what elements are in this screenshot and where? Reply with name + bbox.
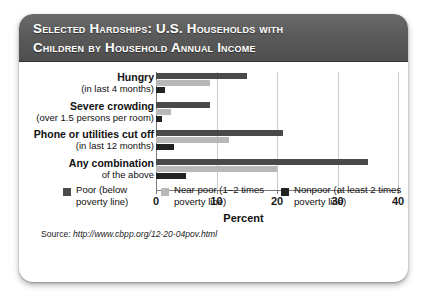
legend-label-line2: poverty line) [174,196,294,208]
bar-0-0 [156,73,247,79]
legend-label-line1: Nonpoor (at least 2 times [294,184,408,196]
category-label-line1: Hungry [19,71,154,83]
legend-label-1: Near poor (1–2 timespoverty line) [174,184,294,207]
card-header: Selected Hardships: U.S. Households with… [19,14,408,62]
gridline-40 [398,72,399,190]
category-label-line1: Phone or utilities cut off [19,128,154,140]
category-label-3: Any combinationof the above [19,157,154,180]
category-label-line2: (in last 12 months) [19,140,154,151]
chart-card: Selected Hardships: U.S. Households with… [19,14,408,282]
category-label-line1: Severe crowding [19,100,154,112]
title-line-2: Children by Household Annual Income [33,38,393,57]
category-label-line2: (in last 4 months) [19,83,154,94]
bar-3-0 [156,159,368,165]
bar-2-1 [156,137,229,143]
bar-1-2 [156,116,162,122]
category-label-1: Severe crowding(over 1.5 persons per roo… [19,100,154,123]
title-line-1: Selected Hardships: U.S. Households with [33,19,393,38]
category-label-2: Phone or utilities cut off(in last 12 mo… [19,128,154,151]
bar-3-1 [156,166,277,172]
source-note: Source: http://www.cbpp.org/12-20-04pov.… [41,229,217,239]
legend-label-line1: Near poor (1–2 times [174,184,294,196]
legend-swatch-1 [161,188,169,196]
category-label-line2: (over 1.5 persons per room) [19,112,154,123]
bar-0-1 [156,80,210,86]
source-label: Source: [41,229,73,239]
page-title: Selected Hardships: U.S. Households with… [33,19,393,57]
legend-label-line2: poverty line) [294,196,408,208]
source-url: http://www.cbpp.org/12-20-04pov.html [73,229,217,239]
bar-2-0 [156,130,283,136]
category-label-line2: of the above [19,169,154,180]
bar-2-2 [156,144,174,150]
bar-1-1 [156,109,171,115]
chart-legend: Poor (belowpoverty line)Near poor (1–2 t… [19,186,408,220]
category-label-line1: Any combination [19,157,154,169]
page-root: Selected Hardships: U.S. Households with… [0,0,427,296]
legend-label-line1: Poor (below [76,184,171,196]
legend-swatch-0 [63,188,71,196]
legend-swatch-2 [281,188,289,196]
category-label-0: Hungry(in last 4 months) [19,71,154,94]
chart-plot-area: 010203040 Hungry(in last 4 months)Severe… [19,62,408,282]
legend-label-0: Poor (belowpoverty line) [76,184,171,207]
legend-label-line2: poverty line) [76,196,171,208]
bar-1-0 [156,102,210,108]
gridline-30 [338,72,339,190]
bar-0-2 [156,87,165,93]
legend-label-2: Nonpoor (at least 2 timespoverty line) [294,184,408,207]
bar-3-2 [156,173,186,179]
